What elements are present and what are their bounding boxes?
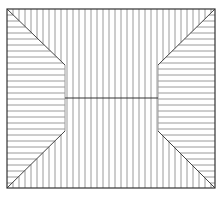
hatched-panel-diagram: [0, 0, 221, 199]
